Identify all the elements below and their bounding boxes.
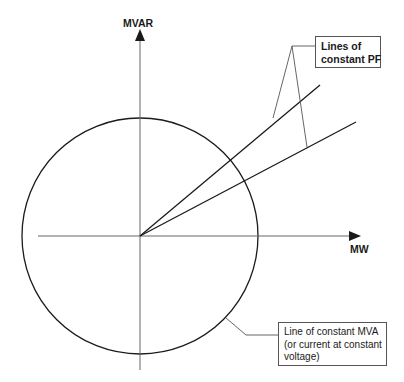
mva-callout-line-1: Line of constant MVA bbox=[284, 326, 381, 339]
pf-callout-line-1: Lines of bbox=[321, 40, 375, 53]
mva-callout-leader bbox=[226, 318, 278, 335]
mw-axis-arrow-icon bbox=[349, 231, 361, 241]
mw-axis-label: MW bbox=[350, 244, 369, 255]
pf-line-upper bbox=[140, 85, 320, 236]
mvar-axis-label: MVAR bbox=[123, 18, 153, 29]
mva-callout-box: Line of constant MVA (or current at cons… bbox=[278, 322, 387, 366]
pf-callout-line-2: constant PF bbox=[321, 53, 375, 66]
mva-callout-line-3: voltage) bbox=[284, 351, 381, 364]
mvar-axis-arrow-icon bbox=[135, 29, 145, 41]
mva-callout-line-2: (or current at constant bbox=[284, 339, 381, 352]
pf-line-lower bbox=[140, 122, 356, 236]
pf-callout-leader bbox=[273, 46, 307, 147]
pf-callout-box: Lines of constant PF bbox=[315, 36, 381, 68]
